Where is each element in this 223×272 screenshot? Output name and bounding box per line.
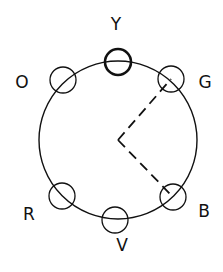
color-wheel-diagram: YGBVRO bbox=[0, 0, 223, 272]
node-label-b: B bbox=[198, 201, 210, 221]
node-label-v: V bbox=[116, 235, 128, 255]
background bbox=[0, 0, 223, 272]
node-label-g: G bbox=[198, 72, 211, 92]
node-label-y: Y bbox=[110, 14, 122, 34]
node-label-r: R bbox=[23, 204, 35, 224]
node-label-o: O bbox=[15, 72, 28, 92]
